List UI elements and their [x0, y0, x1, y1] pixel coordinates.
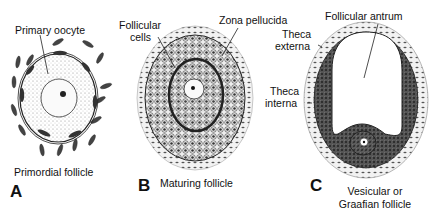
caption-maturing-follicle: Maturing follicle [160, 177, 233, 189]
label-primary-oocyte: Primary oocyte [15, 24, 85, 36]
panel-letter-c: C [310, 176, 322, 196]
label-zona-pellucida: Zona pellucida [219, 14, 287, 26]
graafian-follicle [304, 22, 428, 178]
caption-vesicular: Vesicular or [335, 185, 415, 197]
caption-primordial-follicle: Primordial follicle [14, 166, 93, 178]
label-theca-externa-1: Theca [282, 28, 311, 40]
primordial-follicle [10, 35, 112, 156]
maturing-follicle [137, 26, 253, 170]
label-theca-interna-2: interna [265, 97, 297, 109]
label-follicular: Follicular [119, 19, 161, 31]
follicle-diagram: Primary oocyte Primordial follicle A Fol… [0, 0, 440, 216]
label-theca-externa-2: externa [275, 40, 310, 52]
label-theca-interna-1: Theca [270, 85, 299, 97]
panel-letter-a: A [10, 182, 22, 202]
label-follicular-antrum: Follicular antrum [325, 10, 403, 22]
label-cells: cells [130, 31, 151, 43]
caption-graafian-follicle: Graafian follicle [330, 198, 420, 210]
panel-letter-b: B [138, 176, 150, 196]
